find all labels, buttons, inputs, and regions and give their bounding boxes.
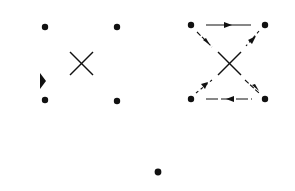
edge-diag-bottom-right xyxy=(245,80,260,94)
cross-icon xyxy=(218,52,241,75)
right-panel xyxy=(188,22,268,102)
node-bottom-right xyxy=(262,96,268,102)
edge-diag-bottom-left xyxy=(196,80,212,93)
edge-diag-top-right xyxy=(246,31,259,46)
node-bottom-left xyxy=(188,96,194,102)
node-top-left xyxy=(42,24,48,30)
diagram-canvas xyxy=(0,0,295,191)
node-bottom-left xyxy=(42,97,48,103)
arrowhead-icon xyxy=(40,73,46,89)
node-top-right xyxy=(114,24,120,30)
edge-bottom xyxy=(206,96,252,102)
cross-icon xyxy=(70,52,93,75)
node-bottom-right xyxy=(114,98,120,104)
isolated-node xyxy=(155,169,162,176)
node-top-left xyxy=(188,22,194,28)
edge-top xyxy=(206,22,251,28)
node-top-right xyxy=(262,22,268,28)
left-panel xyxy=(40,24,120,104)
edge-diag-top-left xyxy=(197,32,212,47)
